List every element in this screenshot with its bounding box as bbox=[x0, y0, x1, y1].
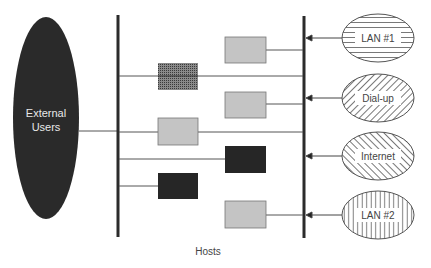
network-lan1: LAN #1 bbox=[342, 14, 414, 62]
right-bus bbox=[303, 16, 306, 238]
host-connectors bbox=[119, 50, 303, 215]
network-label: Internet bbox=[361, 151, 395, 162]
left-bus bbox=[117, 15, 120, 237]
arrow-icon bbox=[306, 35, 312, 41]
arrow-icon bbox=[306, 212, 312, 218]
network-internet: Internet bbox=[342, 132, 414, 180]
host-box bbox=[225, 92, 266, 118]
network-dialup: Dial-up bbox=[342, 74, 414, 122]
host-box bbox=[158, 173, 198, 199]
host-box bbox=[225, 37, 266, 63]
arrow-icon bbox=[306, 153, 312, 159]
network-label: Dial-up bbox=[362, 93, 394, 104]
arrow-icon bbox=[306, 95, 312, 101]
hosts-label: Hosts bbox=[195, 246, 221, 257]
external-users-label-line2: Users bbox=[32, 121, 61, 133]
external-users-label-line1: External bbox=[26, 107, 66, 119]
network-diagram: External Users LAN #1 bbox=[0, 0, 431, 268]
host-box bbox=[225, 201, 266, 228]
network-label: LAN #2 bbox=[361, 210, 395, 221]
network-label: LAN #1 bbox=[361, 33, 395, 44]
external-users-node: External Users bbox=[13, 17, 79, 219]
network-lan2: LAN #2 bbox=[342, 191, 414, 239]
host-box bbox=[225, 146, 266, 173]
network-arrows bbox=[306, 35, 342, 218]
host-box bbox=[158, 118, 198, 145]
